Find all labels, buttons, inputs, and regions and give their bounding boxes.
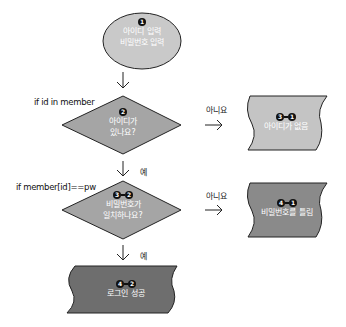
wrong-pw-line: 비밀번호를 틀림	[254, 207, 320, 218]
step-badge: 2	[125, 191, 133, 199]
step-badge: 4	[116, 280, 124, 288]
no-label: 아니요	[206, 190, 227, 201]
arrow-right-icon	[205, 205, 222, 215]
step-badge: 2	[119, 108, 127, 116]
success-line: 로그인 성공	[92, 288, 160, 299]
arrow-down-icon	[117, 161, 129, 176]
step-badge: 3	[113, 191, 121, 199]
start-node-text: 1 아이디 입력 비밀번호 입력	[103, 18, 181, 48]
step-badge: 1	[289, 199, 297, 207]
step-badge: 1	[138, 18, 146, 26]
arrow-down-icon	[117, 72, 129, 88]
check-id-line-2: 있나요?	[93, 127, 153, 138]
no-label: 아니요	[206, 104, 227, 115]
no-id-line: 아이디가 없음	[254, 121, 318, 132]
yes-label: 예	[140, 166, 147, 177]
step-badge: 4	[277, 199, 285, 207]
start-line-2: 비밀번호 입력	[103, 37, 181, 48]
no-id-text: 31 아이디가 없음	[254, 113, 318, 132]
flowchart-canvas	[0, 0, 346, 327]
step-badge: 2	[128, 280, 136, 288]
start-line-1: 아이디 입력	[103, 26, 181, 37]
arrow-right-icon	[205, 120, 222, 130]
check-id-text: 2 아이디가 있나요?	[93, 108, 153, 138]
check-pw-line-2: 일치하나요?	[88, 210, 158, 221]
wrong-pw-text: 41 비밀번호를 틀림	[254, 199, 320, 218]
condition-id-label: if id in member	[34, 97, 94, 107]
step-badge: 1	[288, 113, 296, 121]
check-pw-text: 32 비밀번호가 일치하나요?	[88, 191, 158, 221]
step-badge: 3	[276, 113, 284, 121]
arrow-down-icon	[117, 245, 129, 260]
check-id-line-1: 아이디가	[93, 116, 153, 127]
yes-label: 예	[140, 250, 147, 261]
success-text: 42 로그인 성공	[92, 280, 160, 299]
condition-pw-label: if member[id]==pw	[16, 182, 96, 192]
check-pw-line-1: 비밀번호가	[88, 199, 158, 210]
